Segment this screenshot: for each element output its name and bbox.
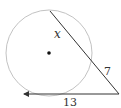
label-external-segment: 7 (104, 65, 111, 78)
secant-line (50, 11, 119, 94)
center-point (47, 51, 51, 55)
secant-tangent-diagram: x 7 13 (0, 0, 121, 108)
label-tangent-length: 13 (63, 96, 77, 108)
label-x: x (54, 27, 61, 41)
